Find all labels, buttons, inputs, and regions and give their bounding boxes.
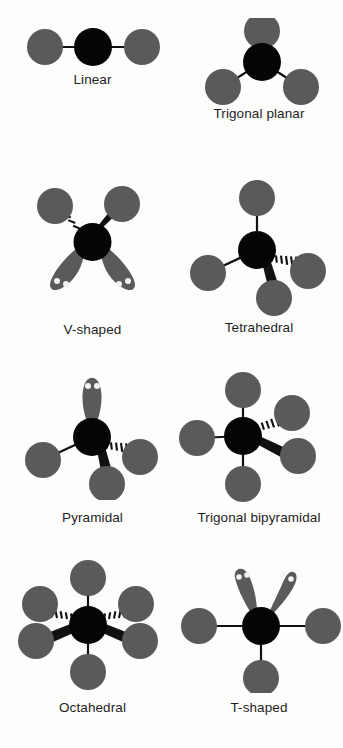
terminal-atom bbox=[274, 395, 310, 431]
shape-diagram-v-shaped bbox=[0, 180, 185, 310]
shape-label-trigonal-bipyramidal: Trigonal bipyramidal bbox=[175, 510, 343, 525]
terminal-atom bbox=[104, 186, 140, 222]
terminal-atom bbox=[122, 623, 158, 659]
shape-label-trigonal-planar: Trigonal planar bbox=[175, 106, 343, 121]
terminal-atom bbox=[70, 560, 106, 596]
trigonal-planar-svg bbox=[175, 18, 343, 110]
terminal-atom bbox=[205, 69, 241, 105]
terminal-atom bbox=[89, 466, 125, 500]
central-atom bbox=[73, 418, 111, 456]
central-atom bbox=[69, 606, 107, 644]
lone-pair-dot bbox=[116, 281, 122, 287]
lone-pair-dot bbox=[236, 574, 242, 580]
shape-label-octahedral: Octahedral bbox=[0, 700, 185, 715]
terminal-atom bbox=[181, 608, 217, 644]
shape-diagram-trigonal-planar bbox=[175, 18, 343, 110]
terminal-atom bbox=[225, 466, 261, 502]
central-atom bbox=[238, 231, 276, 269]
terminal-atom bbox=[190, 255, 226, 291]
t-shaped-svg bbox=[175, 558, 343, 693]
shape-label-tetrahedral: Tetrahedral bbox=[175, 320, 343, 335]
shape-label-v-shaped: V-shaped bbox=[0, 322, 185, 337]
molecular-geometry-figure: Linear Trigonal planar bbox=[0, 0, 343, 748]
terminal-atom bbox=[290, 253, 326, 289]
octahedral-svg bbox=[0, 558, 185, 693]
lone-pair-dot bbox=[63, 281, 69, 287]
tetrahedral-svg bbox=[175, 176, 343, 316]
shape-diagram-trigonal-bipyramidal bbox=[175, 368, 343, 503]
terminal-atom bbox=[70, 654, 106, 690]
terminal-atom bbox=[305, 608, 341, 644]
terminal-atom bbox=[280, 438, 316, 474]
pyramidal-svg bbox=[0, 365, 185, 500]
shape-label-t-shaped: T-shaped bbox=[175, 700, 343, 715]
lone-pair-dot bbox=[85, 383, 91, 389]
lone-pair-dot bbox=[244, 572, 250, 578]
shape-diagram-pyramidal bbox=[0, 365, 185, 500]
shape-diagram-t-shaped bbox=[175, 558, 343, 693]
terminal-atom bbox=[27, 29, 63, 65]
lone-pair-dot bbox=[94, 383, 100, 389]
shape-diagram-tetrahedral bbox=[175, 176, 343, 316]
v-shaped-svg bbox=[0, 180, 185, 310]
central-atom bbox=[243, 43, 281, 81]
terminal-atom bbox=[124, 29, 160, 65]
central-atom bbox=[224, 417, 262, 455]
terminal-atom bbox=[122, 439, 158, 475]
central-atom bbox=[242, 607, 280, 645]
lone-pair-dot bbox=[54, 278, 60, 284]
terminal-atom bbox=[283, 69, 319, 105]
terminal-atom bbox=[25, 442, 61, 478]
shape-label-linear: Linear bbox=[0, 72, 185, 87]
terminal-atom bbox=[37, 188, 73, 224]
lone-pair-dot bbox=[288, 576, 294, 582]
terminal-atom bbox=[239, 180, 275, 216]
central-atom bbox=[74, 223, 112, 261]
terminal-atom bbox=[118, 586, 154, 622]
terminal-atom bbox=[22, 586, 58, 622]
lone-pair-dot bbox=[280, 572, 286, 578]
central-atom bbox=[74, 28, 112, 66]
trigonal-bipyramidal-svg bbox=[175, 368, 343, 503]
terminal-atom bbox=[225, 372, 261, 408]
lone-pair-dot bbox=[125, 278, 131, 284]
terminal-atom bbox=[18, 623, 54, 659]
terminal-atom bbox=[243, 660, 279, 693]
shape-label-pyramidal: Pyramidal bbox=[0, 510, 185, 525]
shape-diagram-octahedral bbox=[0, 558, 185, 693]
terminal-atom bbox=[256, 280, 292, 316]
terminal-atom bbox=[179, 420, 215, 456]
